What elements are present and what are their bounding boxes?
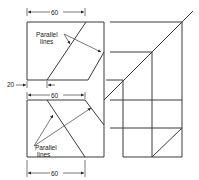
projection-diagram: 60 Parallel lines 20 60 Parallel lines [0, 0, 199, 180]
top-callout-text-2: lines [40, 38, 54, 45]
bottom-dimension-label: 60 [51, 170, 59, 177]
offset-dimension-label: 20 [7, 81, 15, 88]
top-dimension-label: 60 [51, 9, 59, 16]
bottom-dimension: 60 [27, 160, 85, 177]
top-dimension: 60 [27, 8, 85, 16]
bottom-callout-text-2: lines [37, 151, 51, 158]
middle-dimension-label: 60 [51, 92, 59, 99]
top-callout-text-1: Parallel [36, 31, 58, 38]
projection-lines [104, 22, 182, 157]
miter-line [104, 11, 193, 100]
offset-dimension: 20 [7, 81, 55, 88]
bottom-parallel-lines-callout: Parallel lines [34, 108, 91, 158]
middle-dimension: 60 [27, 92, 85, 100]
bottom-callout-text-1: Parallel [35, 144, 57, 151]
